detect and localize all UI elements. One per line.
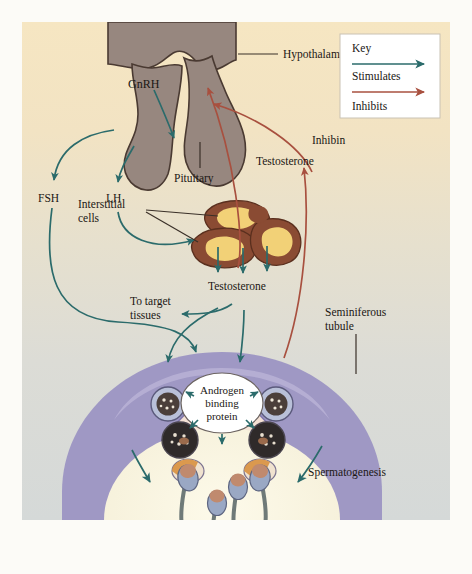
label-interstitial-cells-line1: Interstitial xyxy=(78,198,125,210)
label-interstitial-cells-line2: cells xyxy=(78,212,100,224)
label-inhibin: Inhibin xyxy=(312,134,345,146)
key-title: Key xyxy=(352,42,371,55)
label-to-target-line1: To target xyxy=(130,295,172,308)
label-gnrh: GnRH xyxy=(128,77,160,91)
label-pituitary: Pituitary xyxy=(174,172,214,185)
label-testosterone-lower: Testosterone xyxy=(208,280,266,292)
diagram-panel: Hypothalamus GnRH Pituitary FSH LH Inter… xyxy=(22,22,450,520)
key-legend: Key Stimulates Inhibits xyxy=(340,34,440,118)
label-to-target-line2: tissues xyxy=(130,309,161,321)
label-seminiferous-line2: tubule xyxy=(325,320,354,332)
label-fsh: FSH xyxy=(38,192,59,204)
spermatogonium-left xyxy=(151,387,185,421)
label-testosterone-upper: Testosterone xyxy=(256,155,314,167)
label-abp-line2: binding xyxy=(205,397,239,409)
key-inhibits-label: Inhibits xyxy=(352,100,388,112)
key-stimulates-label: Stimulates xyxy=(352,70,401,82)
figure-canvas: Hypothalamus GnRH Pituitary FSH LH Inter… xyxy=(0,0,472,574)
label-spermatogenesis: Spermatogenesis xyxy=(308,466,386,479)
spermatogonium-right xyxy=(259,387,293,421)
label-abp-line1: Androgen xyxy=(200,384,244,396)
label-abp-line3: protein xyxy=(206,410,238,422)
label-seminiferous-line1: Seminiferous xyxy=(325,306,387,318)
spermatocyte-left xyxy=(162,422,198,458)
